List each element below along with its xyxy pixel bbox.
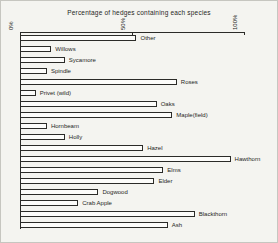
- bar-label-blackthorn: Blackthorn: [199, 211, 227, 218]
- bar-blackthorn: [20, 211, 195, 217]
- bar-label-willows: Willows: [55, 46, 75, 53]
- bar-roses: [20, 79, 177, 85]
- x-axis-tick-label: 50%: [120, 18, 127, 30]
- bar-dogwood: [20, 189, 98, 195]
- bar-holly: [20, 134, 65, 140]
- bar-label-hornbeam: Hornbeam: [51, 123, 79, 130]
- x-axis-tick-label: 100%: [232, 15, 239, 30]
- x-axis-tick-label: 0%: [8, 21, 15, 30]
- bar-label-elms: Elms: [167, 167, 180, 174]
- bar-label-maple-field: Maple(field): [176, 112, 207, 119]
- bar-elms: [20, 167, 163, 173]
- hedge-species-bar-chart: Percentage of hedges containing each spe…: [0, 0, 278, 243]
- bar-label-spindle: Spindle: [51, 68, 71, 75]
- bar-privet-wild: [20, 90, 36, 96]
- bar-label-oaks: Oaks: [161, 101, 175, 108]
- bar-willows: [20, 46, 51, 52]
- bar-label-sycamore: Sycamore: [69, 57, 96, 64]
- bar-hazel: [20, 145, 143, 151]
- bar-label-hazel: Hazel: [147, 145, 162, 152]
- bar-label-hawthorn: Hawthorn: [235, 156, 261, 163]
- bar-maple-field: [20, 112, 172, 118]
- bar-hawthorn: [20, 156, 231, 162]
- bar-label-holly: Holly: [69, 134, 82, 141]
- bar-sycamore: [20, 57, 65, 63]
- x-axis-tick: [244, 32, 245, 35]
- bar-crab-apple: [20, 200, 78, 206]
- bar-label-ash: Ash: [172, 222, 182, 229]
- bar-oaks: [20, 101, 157, 107]
- bar-label-dogwood: Dogwood: [102, 189, 127, 196]
- bar-hornbeam: [20, 123, 47, 129]
- bar-label-privet-wild: Privet (wild): [40, 90, 71, 97]
- bar-label-crab-apple: Crab Apple: [82, 200, 112, 207]
- bar-ash: [20, 222, 168, 228]
- bar-label-other: Other: [140, 35, 155, 42]
- bar-label-elder: Elder: [158, 178, 172, 185]
- bar-spindle: [20, 68, 47, 74]
- bar-elder: [20, 178, 154, 184]
- bar-other: [20, 35, 136, 41]
- bar-label-roses: Roses: [181, 79, 198, 86]
